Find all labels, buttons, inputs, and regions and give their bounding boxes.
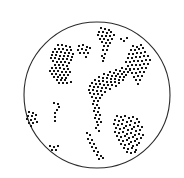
colony-dot	[142, 47, 145, 50]
colony-dot	[122, 119, 125, 122]
colony-dot	[56, 61, 59, 64]
colony-dot	[115, 85, 118, 88]
colony-dot	[118, 82, 121, 85]
colony-dot	[59, 67, 62, 70]
colony-dot	[93, 100, 96, 103]
colony-dot	[131, 72, 134, 75]
colony-dot	[107, 39, 110, 42]
colony-dot	[139, 129, 142, 132]
colony-dot	[129, 61, 132, 64]
colony-dot	[101, 35, 104, 38]
colony-dot	[121, 123, 124, 126]
colony-dot	[136, 144, 139, 147]
colony-dot	[130, 152, 133, 155]
colony-dot	[114, 81, 117, 84]
colony-dot	[145, 67, 148, 70]
colony-dot	[62, 58, 65, 61]
colony-dot	[116, 135, 119, 138]
colony-dot	[72, 53, 75, 56]
colony-dot	[64, 61, 67, 64]
colony-dot	[58, 64, 61, 67]
colony-dot	[102, 31, 105, 34]
colony-dot	[87, 138, 90, 141]
colony-dot	[138, 133, 141, 136]
colony-dot	[137, 60, 140, 63]
colony-dot	[50, 57, 53, 60]
colony-dot	[133, 60, 136, 63]
colony-dot	[130, 49, 133, 52]
colony-dot	[115, 69, 118, 72]
colony-dot	[120, 136, 123, 139]
colony-dot	[65, 71, 68, 74]
colony-dot	[102, 60, 105, 63]
colony-dot	[53, 70, 56, 73]
colony-dot	[71, 56, 74, 59]
colony-dot	[103, 57, 106, 60]
colony-dot	[89, 134, 92, 137]
colony-dot	[132, 45, 135, 48]
colony-dot	[111, 38, 114, 41]
colony-dot	[104, 28, 107, 31]
colony-dot	[131, 64, 134, 67]
colony-dot	[114, 131, 117, 134]
colony-dot	[60, 51, 63, 54]
colony-dot	[56, 109, 59, 112]
colony-dot	[101, 94, 104, 97]
colony-dot	[27, 115, 30, 118]
colony-dot	[119, 76, 122, 79]
colony-dot	[127, 129, 130, 132]
colony-dot	[141, 67, 144, 70]
colony-dot	[129, 124, 132, 127]
colony-dot	[143, 55, 146, 58]
colony-dot	[83, 52, 86, 55]
colony-dot	[77, 49, 80, 52]
colony-dot	[103, 73, 106, 76]
colony-dot	[102, 157, 105, 160]
colony-dot	[109, 42, 112, 45]
colony-dot	[98, 130, 101, 133]
colony-dot	[94, 79, 97, 82]
colony-dot	[102, 77, 105, 80]
colony-dot	[133, 76, 136, 79]
colony-dot	[123, 76, 126, 79]
colony-dot	[54, 120, 57, 123]
colony-dot	[109, 35, 112, 38]
colony-dot	[134, 49, 137, 52]
colony-dot	[28, 122, 31, 125]
colony-dot	[115, 127, 118, 130]
colony-dot	[139, 71, 142, 74]
colony-dot	[89, 85, 92, 88]
colony-dot	[59, 55, 62, 58]
colony-dot	[134, 122, 137, 125]
colony-dot	[137, 68, 140, 71]
colony-dot	[101, 41, 104, 44]
colony-dot	[125, 68, 128, 71]
colony-dot	[140, 52, 143, 55]
colony-dot	[51, 73, 54, 76]
colony-dot	[142, 134, 145, 137]
colony-dot	[64, 79, 67, 82]
colony-dot	[131, 128, 134, 131]
colony-dot	[57, 145, 60, 148]
colony-dot	[91, 82, 94, 85]
colony-dot	[121, 67, 124, 70]
colony-dot	[93, 143, 96, 146]
colony-dot	[106, 77, 109, 80]
colony-dot	[132, 116, 135, 119]
microscopy-figure	[0, 0, 184, 178]
colony-dot	[99, 83, 102, 86]
colony-dot	[93, 93, 96, 96]
colony-dot	[121, 73, 124, 76]
colony-dot	[91, 146, 94, 149]
colony-dot	[122, 140, 125, 143]
colony-dot	[55, 73, 58, 76]
colony-dot	[89, 92, 92, 95]
colony-dot	[120, 38, 123, 41]
colony-dot	[96, 90, 99, 93]
colony-dot	[89, 142, 92, 145]
colony-dot	[105, 35, 108, 38]
colony-dot	[69, 46, 72, 49]
colony-dot	[103, 38, 106, 41]
colony-dot	[62, 82, 65, 85]
colony-dot	[66, 82, 69, 85]
